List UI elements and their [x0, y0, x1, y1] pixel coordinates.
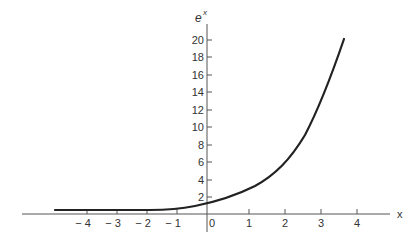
y-axis-label-superscript: x — [202, 8, 208, 17]
svg-text:− 2: − 2 — [135, 217, 151, 229]
y-ticks — [207, 40, 212, 197]
svg-text:16: 16 — [192, 69, 204, 81]
svg-text:0: 0 — [209, 217, 215, 229]
svg-text:2: 2 — [198, 191, 204, 203]
y-tick-labels: 2 4 6 8 10 12 14 16 18 20 — [192, 34, 204, 203]
svg-text:18: 18 — [192, 51, 204, 63]
svg-text:4: 4 — [354, 217, 360, 229]
svg-text:− 3: − 3 — [105, 217, 121, 229]
svg-text:3: 3 — [318, 217, 324, 229]
svg-text:8: 8 — [198, 139, 204, 151]
svg-text:− 1: − 1 — [165, 217, 181, 229]
svg-text:4: 4 — [198, 174, 204, 186]
svg-text:12: 12 — [192, 104, 204, 116]
svg-text:20: 20 — [192, 34, 204, 46]
x-axis-label: x — [397, 208, 403, 220]
svg-text:6: 6 — [198, 156, 204, 168]
svg-text:− 4: − 4 — [75, 217, 91, 229]
svg-text:1: 1 — [246, 217, 252, 229]
svg-text:14: 14 — [192, 86, 204, 98]
svg-text:2: 2 — [282, 217, 288, 229]
svg-text:10: 10 — [192, 121, 204, 133]
exp-chart: − 4 − 3 − 2 − 1 0 1 2 3 4 x 2 4 6 8 10 1… — [0, 0, 419, 242]
y-axis-label: e — [195, 11, 202, 25]
x-tick-labels: − 4 − 3 − 2 − 1 0 1 2 3 4 — [75, 217, 360, 229]
